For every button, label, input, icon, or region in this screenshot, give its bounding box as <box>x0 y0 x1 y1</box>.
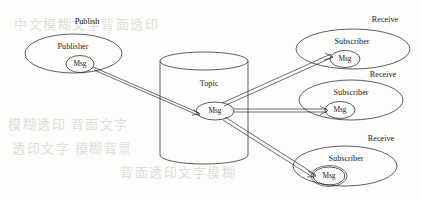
connection-topic-to-subscriber-1 <box>222 53 333 106</box>
receive-caption-3: Receive <box>368 134 395 143</box>
diagram-canvas: 中文模糊文字背面透印 模糊透印 背面文字 透印文字 模糊背景 背面透印文字模糊 <box>0 0 422 201</box>
pubsub-diagram: Topic Msg Publish Publisher Msg Receive … <box>0 0 422 201</box>
connection-publisher-to-topic <box>93 67 200 116</box>
receive-caption-1: Receive <box>372 15 399 24</box>
topic-msg-node[interactable]: Msg <box>196 102 234 120</box>
publisher-msg-label: Msg <box>73 59 86 68</box>
subscriber-msg-label-2: Msg <box>333 105 346 114</box>
publisher-node[interactable]: Publish Publisher Msg <box>25 17 122 73</box>
publisher-msg-node[interactable]: Msg <box>66 56 94 73</box>
topic-msg-label: Msg <box>208 106 221 115</box>
connection-topic-to-subscriber-3 <box>223 117 316 178</box>
subscriber-label-1: Subscriber <box>334 37 369 46</box>
subscriber-node-1[interactable]: Receive Subscriber Msg <box>296 15 410 69</box>
subscriber-node-3[interactable]: Receive Subscriber Msg <box>293 134 397 187</box>
subscriber-msg-node-1[interactable]: Msg <box>330 51 360 68</box>
topic-cylinder[interactable]: Topic Msg <box>160 52 248 164</box>
publish-caption: Publish <box>75 17 100 26</box>
topic-label: Topic <box>200 79 219 88</box>
subscriber-label-2: Subscriber <box>333 88 368 97</box>
subscriber-msg-label-3: Msg <box>322 171 335 180</box>
subscriber-node-2[interactable]: Receive Subscriber Msg <box>299 70 403 120</box>
subscriber-label-3: Subscriber <box>328 154 363 163</box>
publisher-label: Publisher <box>58 42 89 51</box>
subscriber-msg-label-1: Msg <box>338 54 351 63</box>
subscriber-msg-node-2[interactable]: Msg <box>325 102 355 119</box>
receive-caption-2: Receive <box>370 70 397 79</box>
